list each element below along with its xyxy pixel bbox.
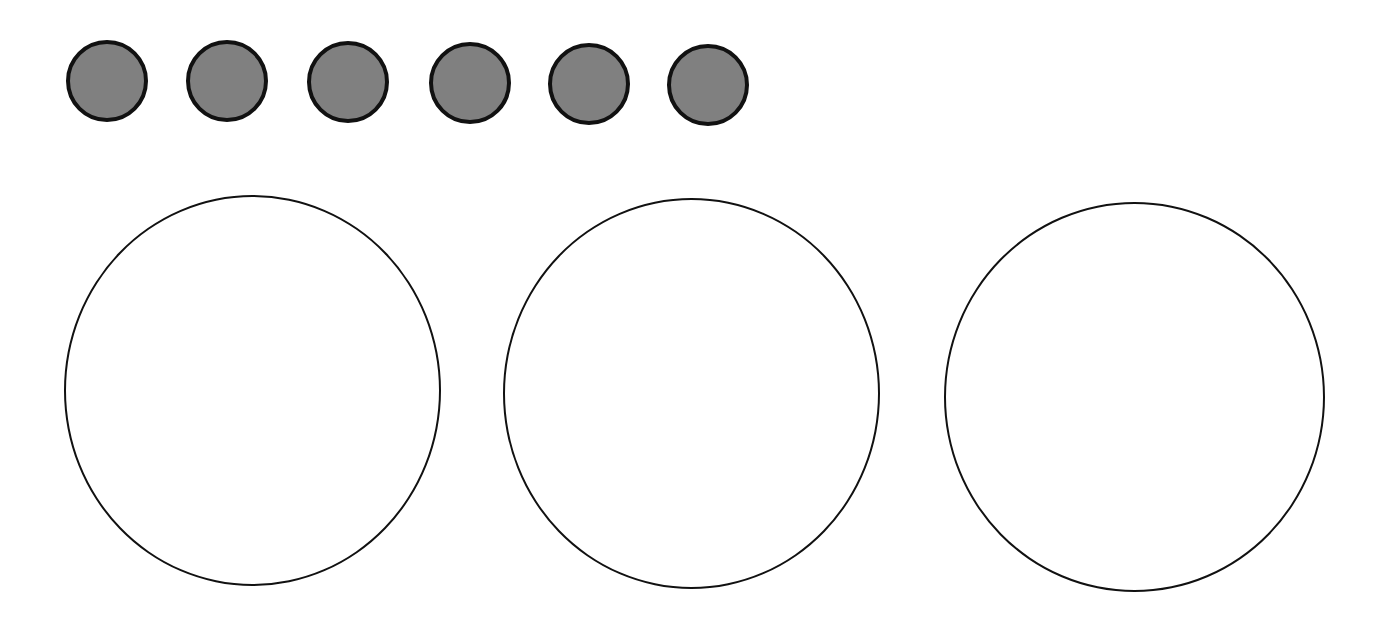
diagram-canvas [0,0,1374,634]
large-circle-1 [64,195,441,586]
small-circle-3 [307,41,389,123]
large-circle-2 [503,198,880,589]
small-circle-6 [667,44,749,126]
small-circle-1 [66,40,148,122]
small-circle-5 [548,43,630,125]
small-circle-2 [186,40,268,122]
small-circle-4 [429,42,511,124]
large-circle-3 [944,202,1325,592]
